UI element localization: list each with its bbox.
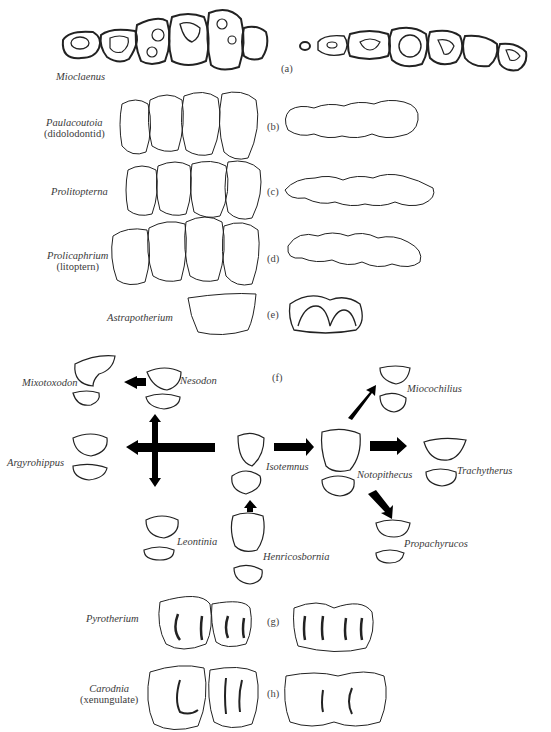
panel-tag-c: (c) (267, 186, 279, 197)
taxon-name: Carodnia (89, 683, 129, 694)
taxon-label-isotemnus: Isotemnus (266, 461, 309, 472)
phylogeny-arrows (124, 376, 407, 519)
arrow-henricosbornia-to-isotemnus (244, 500, 257, 512)
taxon-label-leontinia: Leontinia (177, 536, 217, 547)
arrow-isotemnus-to-notopithecus (274, 438, 314, 456)
panel-tag-a: (a) (281, 63, 293, 74)
taxon-label-pyrotherium: Pyrotherium (86, 613, 139, 624)
taxon-note: (litoptern) (47, 261, 108, 272)
taxon-label-prolicaphrium: Prolicaphrium (litoptern) (47, 250, 108, 272)
pyrotherium-teeth (159, 596, 373, 651)
taxon-label-argyrohippus: Argyrohippus (7, 457, 64, 468)
taxon-label-carodnia: Carodnia (xenungulate) (80, 683, 138, 705)
arrow-notopithecus-to-miocochilius (348, 385, 376, 420)
taxon-label-propachyrucos: Propachyrucos (404, 538, 468, 549)
taxon-label-mixotoxodon: Mixotoxodon (22, 377, 77, 388)
arrow-isotemnus-to-argyrohippus (126, 440, 215, 455)
panel-tag-h: (h) (267, 688, 279, 699)
taxon-label-prolitopterna: Prolitopterna (51, 186, 108, 197)
taxon-name: Paulacoutoia (46, 117, 103, 128)
panel-tag-d: (d) (267, 253, 279, 264)
taxon-name: Prolicaphrium (47, 250, 108, 261)
taxon-label-miocochilius: Miocochilius (407, 383, 462, 394)
taxon-label-astrapotherium: Astrapotherium (107, 312, 173, 323)
arrow-notopithecus-to-trachytherus (370, 437, 407, 455)
taxon-label-henricosbornia: Henricosbornia (263, 551, 330, 562)
taxon-note: (didolodontid) (44, 128, 105, 139)
arrow-notopithecus-to-propachyrucos (368, 490, 393, 519)
prolitopterna-teeth (126, 161, 434, 219)
panel-tag-f: (f) (272, 372, 283, 383)
mioclaenus-lower-teeth (300, 28, 526, 71)
taxon-label-mioclaenus: Mioclaenus (56, 71, 105, 82)
taxon-label-paulacoutoia: Paulacoutoia (didolodontid) (44, 117, 105, 139)
taxon-note: (xenungulate) (80, 694, 138, 705)
mioclaenus-upper-teeth (63, 10, 268, 69)
arrow-nesodon-to-mixotoxodon (124, 376, 146, 389)
taxon-label-nesodon: Nesodon (180, 375, 217, 386)
panel-tag-g: (g) (267, 616, 279, 627)
panel-tag-b: (b) (267, 121, 279, 132)
panel-tag-e: (e) (267, 309, 279, 320)
taxon-label-trachytherus: Trachytherus (457, 465, 512, 476)
taxon-label-notopithecus: Notopithecus (357, 469, 412, 480)
prolicaphrium-teeth (112, 217, 421, 285)
